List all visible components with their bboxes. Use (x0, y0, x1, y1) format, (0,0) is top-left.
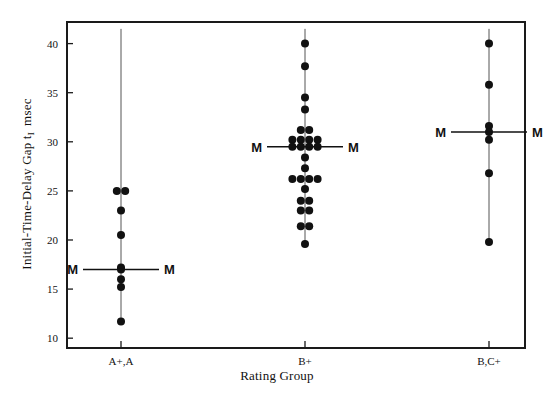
data-point (301, 62, 309, 70)
data-point (117, 317, 125, 325)
y-tick-label: 40 (47, 38, 59, 50)
median-label-right: M (532, 125, 543, 140)
data-point (288, 136, 296, 144)
group-1: MM (67, 29, 175, 326)
data-point (288, 175, 296, 183)
y-tick-label: 15 (47, 283, 59, 295)
group-3: MM (435, 29, 543, 246)
data-point (301, 154, 309, 162)
dot-plot-svg: 10152025303540A+,AB+B,C+MMMMMM (0, 0, 554, 395)
y-tick-label: 35 (47, 87, 59, 99)
plot-frame (67, 22, 525, 348)
data-point (301, 105, 309, 113)
median-label-left: M (67, 262, 78, 277)
data-point (314, 175, 322, 183)
data-point (301, 164, 309, 172)
median-label-right: M (164, 262, 175, 277)
data-point (301, 94, 309, 102)
data-point (297, 222, 305, 230)
data-point (305, 175, 313, 183)
group-2: MM (251, 29, 359, 248)
y-axis-title: Initial-Time-Delay Gap tI msec (19, 24, 39, 344)
data-point (117, 231, 125, 239)
data-point (301, 240, 309, 248)
data-point (485, 238, 493, 246)
data-point (305, 197, 313, 205)
data-point (485, 169, 493, 177)
data-point (117, 275, 125, 283)
data-point (121, 187, 129, 195)
y-tick-label: 25 (47, 185, 59, 197)
x-axis-title: Rating Group (0, 368, 554, 384)
x-tick-label-1: A+,A (109, 355, 134, 367)
data-point (117, 207, 125, 215)
data-point (485, 81, 493, 89)
data-point (297, 126, 305, 134)
data-point (297, 197, 305, 205)
data-point (297, 136, 305, 144)
median-label-right: M (348, 140, 359, 155)
x-tick-label-3: B,C+ (477, 355, 501, 367)
y-axis-title-subscript: I (26, 132, 36, 135)
data-point (485, 40, 493, 48)
data-point (305, 126, 313, 134)
data-point (314, 136, 322, 144)
data-point (113, 187, 121, 195)
y-tick-label: 30 (47, 136, 59, 148)
x-tick-label-2: B+ (298, 355, 312, 367)
data-point (117, 283, 125, 291)
data-point (301, 185, 309, 193)
y-axis-title-text: Initial-Time-Delay Gap tI msec (19, 98, 35, 269)
data-point (305, 136, 313, 144)
chart-figure: 10152025303540A+,AB+B,C+MMMMMM Initial-T… (0, 0, 554, 395)
data-point (297, 207, 305, 215)
data-point (485, 136, 493, 144)
median-label-left: M (251, 140, 262, 155)
y-tick-label: 20 (47, 234, 59, 246)
y-tick-label: 10 (47, 332, 59, 344)
data-point (305, 207, 313, 215)
data-point (305, 222, 313, 230)
data-point (297, 175, 305, 183)
data-point (301, 40, 309, 48)
median-label-left: M (435, 125, 446, 140)
